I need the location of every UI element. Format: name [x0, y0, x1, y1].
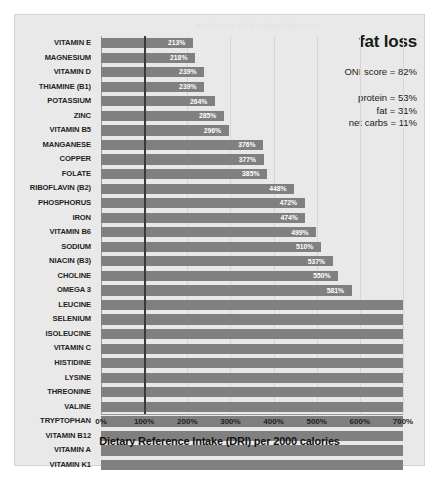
bar-value-label: 239% [179, 82, 196, 92]
bar-value-label: 448% [269, 184, 286, 194]
x-tick-label: 400% [263, 417, 283, 426]
bar-row: 213% [101, 36, 403, 51]
x-axis-tick-labels: 0%100%200%300%400%500%600%700% [101, 417, 403, 431]
bar [101, 402, 403, 412]
bar-row: 376% [101, 138, 403, 153]
category-label: LEUCINE [14, 298, 96, 313]
bar-row: 448% [101, 181, 403, 196]
bar-row: 499% [101, 225, 403, 240]
category-label: SELENIUM [14, 312, 96, 327]
bar-row: 474% [101, 211, 403, 226]
gridline-700 [403, 36, 404, 414]
plot-area: 213%218%239%239%264%285%296%376%377%385%… [101, 36, 403, 414]
x-tick-label: 700% [393, 417, 413, 426]
bar [101, 300, 403, 310]
bar-row [101, 356, 403, 371]
bar [101, 373, 403, 383]
plot-wrapper: VITAMIN EMAGNESIUMVITAMIN DTHIAMINE (B1)… [14, 14, 425, 466]
bar [101, 213, 305, 223]
bar [101, 198, 305, 208]
category-label: LYSINE [14, 371, 96, 386]
bar [101, 344, 403, 354]
category-label: VITAMIN D [14, 65, 96, 80]
bar-row: 264% [101, 94, 403, 109]
bar [101, 184, 294, 194]
category-axis-labels: VITAMIN EMAGNESIUMVITAMIN DTHIAMINE (B1)… [14, 36, 96, 472]
bar-row: 377% [101, 152, 403, 167]
bar-value-label: 499% [291, 228, 308, 238]
bar-value-label: 581% [327, 286, 344, 296]
bar-row [101, 458, 403, 473]
category-label: MAGNESIUM [14, 51, 96, 66]
bar-row: 550% [101, 269, 403, 284]
bar-value-label: 385% [242, 169, 259, 179]
bar-value-label: 239% [179, 67, 196, 77]
bar-value-label: 472% [280, 198, 297, 208]
category-label: TRYPTOPHAN [14, 414, 96, 429]
x-tick-label: 300% [220, 417, 240, 426]
category-label: THIAMINE (B1) [14, 80, 96, 95]
bar-row: 510% [101, 240, 403, 255]
x-axis-line [101, 414, 403, 415]
bar-row: 472% [101, 196, 403, 211]
bar [101, 271, 338, 281]
category-label: POTASSIUM [14, 94, 96, 109]
bar-value-label: 264% [190, 97, 207, 107]
bar-row: 239% [101, 65, 403, 80]
bar-row [101, 400, 403, 415]
category-label: IRON [14, 211, 96, 226]
bar-row [101, 298, 403, 313]
bar-value-label: 218% [170, 53, 187, 63]
category-label: SODIUM [14, 240, 96, 255]
bar [101, 387, 403, 397]
bar-value-label: 510% [296, 242, 313, 252]
category-label: VALINE [14, 400, 96, 415]
category-label: NIACIN (B3) [14, 254, 96, 269]
bar-row: 218% [101, 51, 403, 66]
bar-value-label: 550% [313, 271, 330, 281]
bar-value-label: 474% [280, 213, 297, 223]
bar-row: 296% [101, 123, 403, 138]
x-tick-label: 100% [134, 417, 154, 426]
bar-row [101, 371, 403, 386]
bar-value-label: 213% [168, 38, 185, 48]
bar-series: 213%218%239%239%264%285%296%376%377%385%… [101, 36, 403, 414]
bar-row: 537% [101, 254, 403, 269]
bar [101, 285, 352, 295]
bar [101, 460, 403, 470]
category-label: VITAMIN K1 [14, 458, 96, 473]
x-tick-label: 200% [177, 417, 197, 426]
bar-value-label: 377% [239, 155, 256, 165]
x-tick-label: 500% [306, 417, 326, 426]
bar-row [101, 341, 403, 356]
bar [101, 256, 333, 266]
category-label: CHOLINE [14, 269, 96, 284]
bar-row: 239% [101, 80, 403, 95]
bar [101, 227, 316, 237]
category-label: VITAMIN E [14, 36, 96, 51]
category-label: ISOLEUCINE [14, 327, 96, 342]
category-label: ZINC [14, 109, 96, 124]
bar [101, 358, 403, 368]
category-label: VITAMIN B6 [14, 225, 96, 240]
x-tick-label: 0% [95, 417, 107, 426]
category-label: COPPER [14, 152, 96, 167]
bar [101, 314, 403, 324]
x-axis-title: Dietary Reference Intake (DRI) per 2000 … [14, 435, 425, 447]
category-label: HISTIDINE [14, 356, 96, 371]
category-label: VITAMIN C [14, 341, 96, 356]
bar-row: 285% [101, 109, 403, 124]
bar-value-label: 296% [204, 126, 221, 136]
bar [101, 329, 403, 339]
category-label: OMEGA 3 [14, 283, 96, 298]
bar-row [101, 312, 403, 327]
bar-row: 581% [101, 283, 403, 298]
bar-row [101, 385, 403, 400]
bar [101, 242, 321, 252]
category-label: VITAMIN B5 [14, 123, 96, 138]
bar-value-label: 376% [238, 140, 255, 150]
category-label: RIBOFLAVIN (B2) [14, 181, 96, 196]
category-label: FOLATE [14, 167, 96, 182]
bar-row [101, 327, 403, 342]
category-label: THREONINE [14, 385, 96, 400]
